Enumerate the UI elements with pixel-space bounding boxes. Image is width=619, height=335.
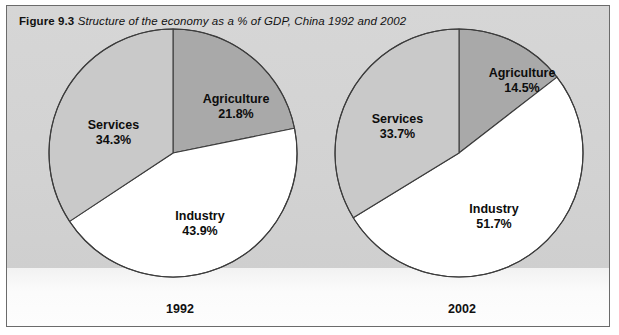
pie-svg-1992 [35,24,325,282]
pie-slices-1992 [49,29,297,277]
pie-label-agriculture-2002-name: Agriculture [489,66,556,80]
year-label-1992: 1992 [35,302,325,316]
pie-label-agriculture-1992: Agriculture 21.8% [171,92,301,123]
pie-label-industry-1992-name: Industry [175,209,224,223]
pie-label-agriculture-2002: Agriculture 14.5% [457,66,587,97]
pie-label-agriculture-1992-value: 21.8% [171,107,301,122]
pie-label-services-1992-value: 34.3% [61,133,166,148]
pie-label-agriculture-1992-name: Agriculture [203,92,270,106]
figure-frame: Figure 9.3 Structure of the economy as a… [6,5,610,327]
year-label-2002: 2002 [317,302,607,316]
pie-label-industry-2002-value: 51.7% [439,217,549,232]
pie-label-services-2002-name: Services [372,112,423,126]
pie-chart-2002: Agriculture 14.5% Industry 51.7% Service… [317,24,607,324]
pie-label-industry-2002-name: Industry [469,202,518,216]
charts-area: Agriculture 21.8% Industry 43.9% Service… [7,6,609,326]
pie-label-industry-1992: Industry 43.9% [145,209,255,240]
pie-label-services-1992-name: Services [88,118,139,132]
pie-chart-1992: Agriculture 21.8% Industry 43.9% Service… [35,24,325,324]
pie-label-industry-1992-value: 43.9% [145,224,255,239]
pie-label-services-2002: Services 33.7% [345,112,450,143]
pie-svg-2002 [317,24,607,282]
pie-label-industry-2002: Industry 51.7% [439,202,549,233]
figure-container: Figure 9.3 Structure of the economy as a… [0,0,619,335]
pie-label-agriculture-2002-value: 14.5% [457,81,587,96]
pie-label-services-2002-value: 33.7% [345,127,450,142]
pie-label-services-1992: Services 34.3% [61,118,166,149]
